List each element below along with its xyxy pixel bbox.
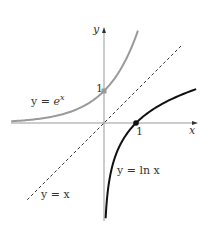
x-axis-label: x <box>189 124 196 137</box>
x-tick-1: 1 <box>136 125 143 138</box>
y-axis-label: y <box>92 23 100 36</box>
axes <box>11 27 198 221</box>
ln-curve <box>106 89 197 218</box>
exp-label-prefix: y = <box>30 95 53 108</box>
function-graph: y x 1 1 y = ex y = ln x y = x <box>0 0 208 228</box>
exp-label-exponent: x <box>60 93 65 102</box>
exp-curve-label: y = ex <box>30 93 65 108</box>
y-axis-arrow-icon <box>102 27 106 33</box>
ln-curve-label: y = ln x <box>116 164 161 177</box>
identity-line-label: y = x <box>40 188 70 201</box>
y-tick-1: 1 <box>96 82 103 95</box>
